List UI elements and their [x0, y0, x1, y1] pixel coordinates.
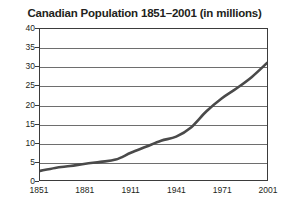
y-tick-label: 30 — [11, 62, 35, 71]
x-axis-labels: 185118811911194119712001 — [39, 186, 268, 200]
x-tick-label: 1941 — [156, 186, 196, 195]
y-tick-label: 15 — [11, 120, 35, 129]
y-tick-label: 35 — [11, 43, 35, 52]
y-tick-label: 20 — [11, 101, 35, 110]
population-line — [40, 63, 267, 171]
x-tick-label: 1971 — [202, 186, 242, 195]
y-axis-labels: 0510152025303540 — [9, 28, 35, 181]
data-series-canvas — [40, 29, 267, 180]
y-tick-label: 25 — [11, 81, 35, 90]
x-tick-label: 1881 — [65, 186, 105, 195]
y-tick-label: 10 — [11, 139, 35, 148]
x-tick-label: 1851 — [19, 186, 59, 195]
chart-title: Canadian Population 1851–2001 (in millio… — [0, 7, 289, 19]
y-tick-label: 40 — [11, 24, 35, 33]
y-tick-label: 5 — [11, 158, 35, 167]
plot-area — [39, 28, 268, 181]
y-tick-mark — [35, 181, 39, 182]
chart-figure: Canadian Population 1851–2001 (in millio… — [0, 0, 289, 218]
x-tick-label: 1911 — [111, 186, 151, 195]
x-tick-label: 2001 — [248, 186, 288, 195]
